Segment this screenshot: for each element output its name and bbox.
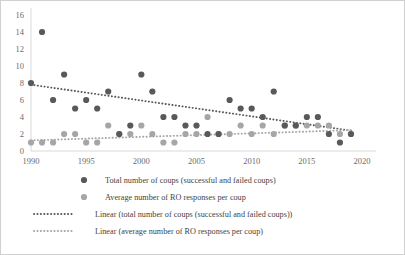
data-point <box>249 131 255 137</box>
y-tick-label: 4 <box>20 112 25 122</box>
data-point <box>271 88 277 94</box>
data-point <box>304 122 310 128</box>
data-point <box>315 122 321 128</box>
data-point <box>149 131 155 137</box>
trendline <box>31 130 351 140</box>
data-point <box>271 131 277 137</box>
legend-label: Linear (total number of coups (successfu… <box>95 210 293 219</box>
data-point <box>28 139 34 145</box>
data-point <box>337 139 343 145</box>
data-point <box>50 97 56 103</box>
data-point <box>72 105 78 111</box>
data-point <box>171 139 177 145</box>
data-point <box>105 88 111 94</box>
data-point <box>138 71 144 77</box>
legend-marker <box>81 194 87 200</box>
data-point <box>260 122 266 128</box>
x-tick-label: 2000 <box>133 156 150 166</box>
y-tick-label: 2 <box>20 129 24 139</box>
y-tick-label: 6 <box>20 95 24 105</box>
scatter-chart: 0246810121416199019952000200520102015202… <box>0 0 405 255</box>
x-tick-label: 1990 <box>23 156 40 166</box>
legend-marker <box>81 177 87 183</box>
data-point <box>215 131 221 137</box>
data-point <box>249 105 255 111</box>
data-point <box>160 114 166 120</box>
data-point <box>94 139 100 145</box>
data-point <box>326 131 332 137</box>
data-point <box>204 114 210 120</box>
data-point <box>304 114 310 120</box>
legend-label: Total number of coups (successful and fa… <box>105 176 276 185</box>
x-tick-label: 2020 <box>354 156 371 166</box>
data-point <box>105 122 111 128</box>
data-point <box>149 88 155 94</box>
data-point <box>116 131 122 137</box>
y-tick-label: 0 <box>20 146 24 156</box>
data-point <box>160 139 166 145</box>
data-point <box>39 139 45 145</box>
data-point <box>138 122 144 128</box>
data-point <box>127 122 133 128</box>
data-point <box>94 105 100 111</box>
data-point <box>83 139 89 145</box>
x-tick-label: 1995 <box>78 156 95 166</box>
data-point <box>238 105 244 111</box>
data-point <box>227 97 233 103</box>
data-point <box>193 122 199 128</box>
data-point <box>127 131 133 137</box>
y-tick-label: 8 <box>20 78 24 88</box>
y-tick-label: 10 <box>16 61 25 71</box>
data-point <box>61 131 67 137</box>
data-point <box>182 122 188 128</box>
legend-label: Average number of RO responses per coup <box>105 193 246 202</box>
data-point <box>238 122 244 128</box>
data-point <box>83 97 89 103</box>
data-point <box>282 122 288 128</box>
y-tick-label: 12 <box>16 44 25 54</box>
data-point <box>61 71 67 77</box>
data-point <box>182 131 188 137</box>
data-point <box>28 80 34 86</box>
data-point <box>315 114 321 120</box>
data-point <box>326 122 332 128</box>
data-point <box>260 114 266 120</box>
data-point <box>337 131 343 137</box>
x-tick-label: 2010 <box>243 156 260 166</box>
x-tick-label: 2015 <box>298 156 315 166</box>
data-point <box>39 29 45 35</box>
trendline <box>31 85 351 131</box>
data-point <box>193 131 199 137</box>
x-tick-label: 2005 <box>188 156 205 166</box>
legend-label: Linear (average number of RO responses p… <box>95 227 263 236</box>
y-tick-label: 14 <box>16 27 25 37</box>
data-point <box>227 131 233 137</box>
data-point <box>171 114 177 120</box>
data-point <box>204 131 210 137</box>
data-point <box>348 131 354 137</box>
data-point <box>72 131 78 137</box>
chart-container: 0246810121416199019952000200520102015202… <box>0 0 405 255</box>
data-point <box>50 139 56 145</box>
data-point <box>293 122 299 128</box>
y-tick-label: 16 <box>16 10 25 20</box>
